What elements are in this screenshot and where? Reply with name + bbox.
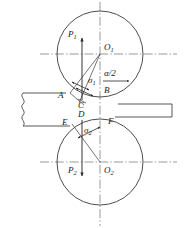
sigma1-arrow-b xyxy=(76,88,93,96)
label-A: A xyxy=(58,91,64,100)
strip-break-line xyxy=(22,93,24,126)
label-F: F xyxy=(108,117,114,126)
label-E: E xyxy=(62,118,68,127)
workpiece-strip xyxy=(22,93,172,126)
radius-O1-to-A xyxy=(70,54,100,93)
diagram-canvas xyxy=(0,0,184,228)
label-B: B xyxy=(104,86,110,95)
centerlines xyxy=(40,2,177,226)
label-P2: P2 xyxy=(68,166,77,175)
label-sigma2: σ2 xyxy=(84,126,92,135)
label-alpha-half: α/2 xyxy=(104,69,116,78)
label-O1: O1 xyxy=(104,43,114,52)
label-D: D xyxy=(78,110,85,119)
rolling-mill-figure: P1 O1 α/2 σ1 B A C D E F σ2 P2 O2 xyxy=(0,0,184,228)
label-P1: P1 xyxy=(68,30,77,39)
label-sigma1: σ1 xyxy=(88,76,96,85)
label-O2: O2 xyxy=(104,166,114,175)
